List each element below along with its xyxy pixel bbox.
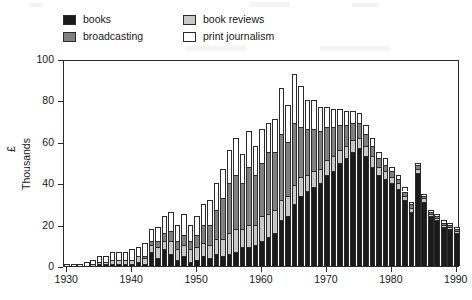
bar-segment-books [331,171,337,266]
bar-segment-print-journalism [402,187,408,191]
bar-segment-print-journalism [428,210,434,212]
bar-segment-book-reviews [454,231,460,233]
bar-segment-book-reviews [318,169,324,183]
bar-segment-book-reviews [344,146,350,158]
bar-segment-book-reviews [90,264,96,266]
bar-segment-print-journalism [292,74,298,124]
legend-label-books: books [83,14,111,25]
y-axis-tick-label: 100 [36,53,54,65]
bar-stack [201,204,207,266]
bar-segment-broadcasting [331,127,337,156]
bar-segment-broadcasting [259,163,265,217]
bar-segment-book-reviews [324,160,330,174]
bar-segment-print-journalism [233,138,239,175]
bar-segment-print-journalism [331,109,337,128]
bar-segment-book-reviews [266,214,272,237]
scan-artifact [250,2,290,7]
bar-stack [142,243,148,266]
legend-swatch-print-journalism [183,32,196,42]
bar-stack [311,100,317,266]
bar-stack [285,105,291,266]
bar-segment-books [272,233,278,266]
plot-area [63,60,459,267]
bar-segment-book-reviews [175,249,181,259]
bar-segment-broadcasting [402,192,408,196]
bar-segment-print-journalism [168,212,174,231]
bar-segment-print-journalism [240,154,246,183]
bar-stack [207,200,213,266]
x-axis-tick-label: 1990 [444,273,467,285]
bar-segment-books [168,254,174,266]
bar-segment-broadcasting [272,152,278,210]
bar-segment-book-reviews [409,208,415,212]
bar-segment-books [363,156,369,266]
bar-segment-book-reviews [441,225,447,227]
bar-segment-print-journalism [84,262,90,266]
bar-segment-book-reviews [97,262,103,264]
bar-segment-books [311,187,317,266]
bar-stack [64,264,70,266]
bar-segment-books [292,204,298,266]
bar-segment-books [383,179,389,266]
bar-segment-print-journalism [279,88,285,134]
bar-segment-broadcasting [389,171,395,177]
bar-segment-print-journalism [188,225,194,242]
bar-segment-books [454,233,460,266]
bar-segment-book-reviews [181,245,187,255]
bar-stack [298,86,304,266]
bar-stack [214,183,220,266]
bar-segment-books [389,183,395,266]
bar-stack [421,194,427,266]
bar-segment-books [181,256,187,266]
bar-segment-broadcasting [285,142,291,196]
bar-segment-books [396,189,402,266]
x-axis-tick-label: 1960 [249,273,272,285]
bar-stack [305,100,311,266]
bar-stack [266,123,272,266]
bar-segment-book-reviews [285,196,291,217]
bar-segment-broadcasting [240,183,246,229]
bar-stack [324,107,330,266]
y-axis-tick-label: 20 [42,219,54,231]
bar-segment-broadcasting [194,235,200,247]
bar-segment-broadcasting [227,183,233,233]
bar-segment-book-reviews [240,229,246,248]
bar-stack [123,252,129,266]
bar-segment-books [357,148,363,266]
bar-stack [246,131,252,266]
bar-segment-book-reviews [233,229,239,252]
bar-segment-books [103,264,109,266]
bar-segment-print-journalism [253,146,259,175]
bar-segment-broadcasting [142,256,148,258]
bar-stack [168,212,174,266]
bar-segment-print-journalism [116,252,122,260]
bar-segment-broadcasting [396,179,402,183]
bar-segment-print-journalism [441,220,447,222]
scan-artifact [320,46,390,51]
bar-segment-print-journalism [77,264,83,266]
bar-stack [344,111,350,266]
bar-stack-group [64,61,458,266]
bar-segment-print-journalism [357,113,363,123]
bar-segment-print-journalism [214,183,220,210]
bar-segment-book-reviews [168,241,174,253]
bar-segment-book-reviews [116,260,122,264]
bar-segment-print-journalism [64,264,70,266]
bar-segment-book-reviews [447,227,453,229]
bar-segment-print-journalism [149,229,155,241]
scan-artifact [352,3,378,7]
x-axis-tick-mark [326,267,327,272]
bar-segment-broadcasting [246,167,252,225]
bar-segment-broadcasting [357,123,363,137]
bar-segment-broadcasting [220,198,226,239]
bar-segment-broadcasting [188,241,194,249]
bar-segment-print-journalism [434,214,440,216]
bar-segment-books [428,216,434,266]
bar-segment-book-reviews [376,167,382,175]
bar-stack [227,150,233,266]
bar-segment-books [162,249,168,266]
bar-segment-book-reviews [337,150,343,162]
bar-segment-books [305,191,311,266]
bar-segment-print-journalism [110,252,116,260]
bar-segment-books [220,256,226,266]
